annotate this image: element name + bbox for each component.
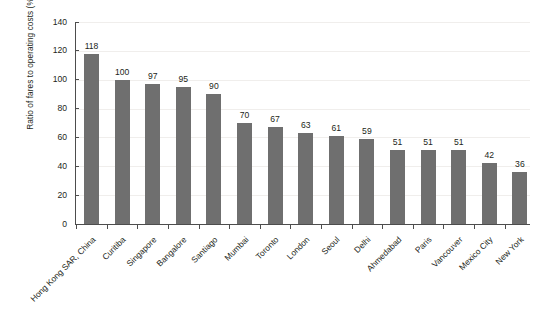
x-axis-tick [76,224,77,229]
bar [237,123,252,224]
bar [298,133,313,224]
x-axis-tick [107,224,108,229]
bar [512,172,527,224]
x-axis-tick [352,224,353,229]
y-tick-label: 60 [57,132,67,142]
bar [176,87,191,224]
x-axis-tick [443,224,444,229]
y-tick-label: 80 [57,103,67,113]
x-axis-tick [199,224,200,229]
x-axis-tick [474,224,475,229]
bar [84,54,99,224]
bar-value-label: 90 [194,81,234,91]
bar [359,139,374,224]
x-axis-tick [382,224,383,229]
bar [482,163,497,224]
bar-value-label: 51 [439,137,479,147]
y-tick-mark [75,79,79,80]
x-axis-tick [290,224,291,229]
bar-chart: Ratio of fares to operating costs (%) 02… [0,0,553,315]
gridline [76,22,530,23]
plot-area: 020406080100120140 118100979590706763615… [75,22,530,224]
y-tick-label: 40 [57,161,67,171]
bar-value-label: 118 [72,41,112,51]
y-tick-mark [75,108,79,109]
x-axis-line [75,224,530,225]
bar [115,80,130,224]
gridline [76,51,530,52]
y-tick-mark [75,22,79,23]
bar [145,84,160,224]
x-axis-tick [137,224,138,229]
bar [329,136,344,224]
bar [268,127,283,224]
y-tick-mark [75,166,79,167]
y-tick-label: 20 [57,190,67,200]
x-axis-tick [168,224,169,229]
x-axis-tick [260,224,261,229]
y-tick-label: 0 [62,219,67,229]
bar [421,150,436,224]
gridline [76,109,530,110]
bar [390,150,405,224]
y-tick-label: 100 [53,74,67,84]
y-axis-title: Ratio of fares to operating costs (%) [26,0,35,153]
x-axis-tick [229,224,230,229]
y-tick-label: 140 [53,17,67,27]
x-axis-tick [321,224,322,229]
y-tick-mark [75,137,79,138]
bar-value-label: 36 [500,159,540,169]
y-tick-mark [75,195,79,196]
y-tick-label: 120 [53,45,67,55]
bar [451,150,466,224]
bar [206,94,221,224]
bar-value-label: 59 [347,126,387,136]
x-axis-tick [505,224,506,229]
x-axis-tick [413,224,414,229]
